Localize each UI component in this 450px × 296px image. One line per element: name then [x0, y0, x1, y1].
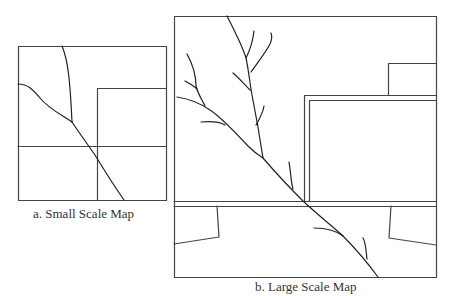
large-map-stream-trunk — [227, 16, 263, 158]
small-scale-map — [18, 46, 167, 201]
large-scale-map — [174, 16, 437, 278]
small-map-frame — [19, 47, 167, 201]
large-map-tributary-8 — [289, 162, 293, 189]
large-map-tributary-10 — [363, 238, 367, 259]
map-comparison-figure — [0, 0, 450, 296]
large-map-parcel-left — [174, 206, 219, 244]
large-map-parcel-right — [389, 206, 436, 245]
small-map-stream-north — [62, 46, 72, 122]
large-map-tributary-2 — [251, 33, 272, 72]
large-map-building-small — [389, 64, 437, 96]
large-map-tributary-5 — [187, 54, 205, 106]
small-map-building — [98, 89, 167, 201]
large-map-tributary-7 — [201, 122, 225, 125]
large-map-tributary-1 — [246, 31, 254, 58]
large-scale-map-caption: b. Large Scale Map — [255, 279, 357, 295]
large-map-tributary-6 — [185, 81, 197, 89]
large-map-building-inner — [310, 101, 437, 202]
small-map-stream-west — [18, 84, 72, 122]
large-map-tributary-3 — [233, 73, 250, 90]
large-map-stream-west-branch — [177, 97, 263, 158]
large-map-stream-main — [263, 158, 378, 277]
small-scale-map-caption: a. Small Scale Map — [33, 206, 134, 222]
large-map-tributary-4 — [256, 106, 264, 125]
large-map-building-outer — [305, 96, 437, 202]
